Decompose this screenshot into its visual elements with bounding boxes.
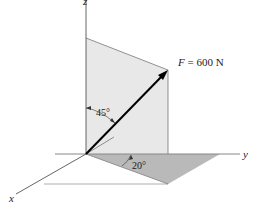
z-axis-label: z xyxy=(82,0,88,7)
y-axis-label: y xyxy=(242,148,248,160)
angle-45-label: 45° xyxy=(96,107,110,118)
x-axis xyxy=(16,154,86,194)
angle-20-label: 20° xyxy=(132,160,146,171)
horizontal-triangle xyxy=(86,154,220,184)
x-axis-label: x xyxy=(8,192,14,204)
force-label: F = 600 N xyxy=(177,56,224,68)
force-diagram: z y x F = 600 N 45° 20° xyxy=(0,0,258,216)
